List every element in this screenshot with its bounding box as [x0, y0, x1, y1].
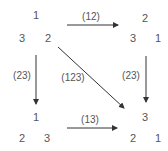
- state-bottom-left-bottom-left: 2: [16, 133, 28, 144]
- state-top-left-bottom-right: 2: [42, 33, 54, 44]
- arrow-left-label: (23): [13, 71, 31, 81]
- state-top-right-top: 2: [139, 13, 151, 24]
- arrow-diagonal-label: (123): [61, 73, 84, 83]
- arrow-bottom-label: (13): [81, 115, 99, 125]
- state-top-right-bottom-left: 3: [127, 33, 139, 44]
- arrow-right-label: (23): [122, 71, 140, 81]
- state-bottom-left-top: 1: [30, 112, 42, 123]
- state-bottom-right-top: 3: [139, 112, 151, 123]
- state-top-left-top: 1: [30, 10, 42, 21]
- state-top-left-bottom-left: 3: [16, 33, 28, 44]
- state-bottom-right-bottom-right: 1: [152, 133, 164, 144]
- state-top-right-bottom-right: 1: [152, 33, 164, 44]
- arrow-top-label: (12): [82, 12, 100, 22]
- state-bottom-left-bottom-right: 3: [41, 133, 53, 144]
- state-bottom-right-bottom-left: 2: [127, 133, 139, 144]
